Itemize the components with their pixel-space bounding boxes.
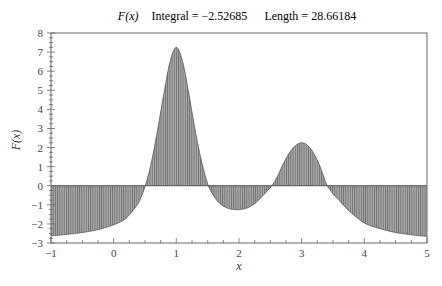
y-tick-label: 5 (38, 84, 44, 96)
y-tick-label: −1 (31, 199, 43, 211)
y-tick-label: 1 (38, 161, 44, 173)
x-tick-label: 4 (362, 247, 368, 259)
y-tick-label: 6 (38, 65, 44, 77)
area-fill (51, 47, 427, 236)
y-tick-label: 7 (38, 46, 44, 58)
y-tick-label: 0 (38, 180, 44, 192)
chart-title: F(x) Integral = −2.52685 Length = 28.661… (117, 9, 356, 23)
y-tick-label: 4 (38, 103, 44, 115)
x-tick-label: −1 (45, 247, 57, 259)
title-function: F(x) (117, 9, 139, 23)
y-tick-label: 3 (38, 122, 44, 134)
x-tick-label: 2 (236, 247, 242, 259)
x-axis-label: x (235, 259, 242, 273)
y-tick-label: 2 (38, 142, 44, 154)
y-axis-label: F(x) (9, 130, 23, 152)
title-length: Length = 28.66184 (264, 9, 356, 23)
x-tick-label: 1 (174, 247, 180, 259)
x-tick-label: 3 (299, 247, 305, 259)
y-tick-label: −2 (31, 218, 43, 230)
x-axis: −1012345 (45, 238, 430, 259)
chart: F(x) Integral = −2.52685 Length = 28.661… (0, 0, 442, 286)
y-tick-label: 8 (38, 27, 44, 39)
title-integral: Integral = −2.52685 (152, 9, 248, 23)
x-tick-label: 5 (424, 247, 430, 259)
x-tick-label: 0 (111, 247, 117, 259)
y-tick-label: −3 (31, 237, 43, 249)
